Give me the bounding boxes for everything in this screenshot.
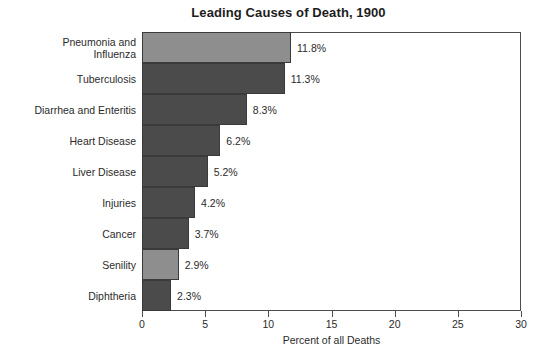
x-tick-mark bbox=[458, 311, 459, 317]
category-label: Tuberculosis bbox=[0, 73, 136, 85]
category-label: Diarrhea and Enteritis bbox=[0, 104, 136, 116]
x-tick-label: 15 bbox=[326, 318, 338, 330]
bar-value-label: 4.2% bbox=[201, 197, 225, 209]
x-tick-mark bbox=[268, 311, 269, 317]
category-label: Diphtheria bbox=[0, 290, 136, 302]
x-tick-mark bbox=[332, 311, 333, 317]
bar-value-label: 2.3% bbox=[177, 290, 201, 302]
bar bbox=[142, 249, 179, 280]
bar-value-label: 2.9% bbox=[185, 259, 209, 271]
bar-value-label: 11.8% bbox=[297, 42, 326, 54]
category-label: Heart Disease bbox=[0, 135, 136, 147]
bar-row: 2.3% bbox=[142, 280, 521, 311]
bar-value-label: 5.2% bbox=[214, 166, 238, 178]
x-tick-mark bbox=[395, 311, 396, 317]
bar-row: 4.2% bbox=[142, 187, 521, 218]
bar-value-label: 6.2% bbox=[226, 135, 250, 147]
category-label: Liver Disease bbox=[0, 166, 136, 178]
x-tick-label: 25 bbox=[452, 318, 464, 330]
category-label: Senility bbox=[0, 259, 136, 271]
bar bbox=[142, 63, 285, 94]
x-tick-mark bbox=[205, 311, 206, 317]
x-tick-label: 0 bbox=[139, 318, 145, 330]
x-axis-tick-labels: 051015202530 bbox=[0, 318, 553, 332]
category-label: Pneumonia and Influenza bbox=[0, 36, 136, 60]
x-tick-label: 10 bbox=[262, 318, 274, 330]
bar-row: 6.2% bbox=[142, 125, 521, 156]
bar-row: 11.3% bbox=[142, 63, 521, 94]
category-label: Injuries bbox=[0, 197, 136, 209]
x-axis-ticks bbox=[142, 311, 521, 317]
bar-value-label: 11.3% bbox=[291, 73, 320, 85]
bar-row: 2.9% bbox=[142, 249, 521, 280]
bar-row: 8.3% bbox=[142, 94, 521, 125]
bar-row: 3.7% bbox=[142, 218, 521, 249]
x-tick-label: 30 bbox=[515, 318, 527, 330]
bar-value-label: 3.7% bbox=[195, 228, 219, 240]
bar-chart: Leading Causes of Death, 1900 Pneumonia … bbox=[0, 0, 553, 351]
chart-title: Leading Causes of Death, 1900 bbox=[0, 5, 553, 20]
bar bbox=[142, 187, 195, 218]
x-tick-mark bbox=[521, 311, 522, 317]
bar bbox=[142, 280, 171, 311]
bar bbox=[142, 94, 247, 125]
bar bbox=[142, 218, 189, 249]
x-tick-label: 5 bbox=[202, 318, 208, 330]
bar bbox=[142, 32, 291, 63]
category-axis-labels: Pneumonia and InfluenzaTuberculosisDiarr… bbox=[0, 32, 136, 311]
bar-value-label: 8.3% bbox=[253, 104, 277, 116]
bar bbox=[142, 125, 220, 156]
x-tick-label: 20 bbox=[389, 318, 401, 330]
x-axis-title: Percent of all Deaths bbox=[142, 334, 521, 346]
bar-row: 5.2% bbox=[142, 156, 521, 187]
bar bbox=[142, 156, 208, 187]
category-label: Cancer bbox=[0, 228, 136, 240]
x-tick-mark bbox=[142, 311, 143, 317]
bars-layer: 11.8%11.3%8.3%6.2%5.2%4.2%3.7%2.9%2.3% bbox=[142, 32, 521, 311]
bar-row: 11.8% bbox=[142, 32, 521, 63]
